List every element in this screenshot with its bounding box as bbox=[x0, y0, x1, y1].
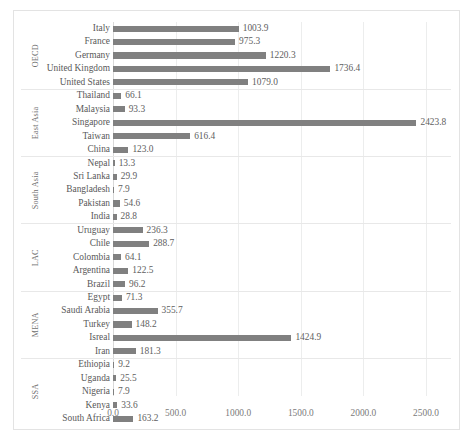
bar-row: Nepal13.3 bbox=[14, 157, 459, 170]
bar-chart-plot-area: Italy1003.9France975.3Germany1220.3Unite… bbox=[14, 11, 459, 429]
bar-value-label: 64.1 bbox=[125, 251, 141, 264]
bar bbox=[113, 295, 122, 301]
bar bbox=[113, 133, 190, 139]
bar bbox=[113, 200, 120, 206]
bar-row: Chile288.7 bbox=[14, 237, 459, 250]
bar-row: Isreal1424.9 bbox=[14, 331, 459, 344]
group-separator bbox=[21, 156, 451, 157]
bar-value-label: 93.3 bbox=[129, 103, 145, 116]
bar-value-label: 28.8 bbox=[121, 210, 137, 223]
x-axis-tick-label: 2000.0 bbox=[351, 408, 377, 418]
bar-value-label: 25.5 bbox=[120, 372, 136, 385]
category-label: Germany bbox=[44, 49, 110, 62]
x-axis-tick-label: 1500.0 bbox=[288, 408, 314, 418]
category-label: Isreal bbox=[44, 331, 110, 344]
bar-value-label: 96.2 bbox=[129, 278, 145, 291]
bar-value-label: 1003.9 bbox=[243, 22, 269, 35]
bar-row: Colombia64.1 bbox=[14, 251, 459, 264]
bar-row: Uganda25.5 bbox=[14, 372, 459, 385]
category-label: Malaysia bbox=[44, 103, 110, 116]
category-label: Nepal bbox=[44, 157, 110, 170]
category-label: United Kingdom bbox=[44, 62, 110, 75]
bar-row: Italy1003.9 bbox=[14, 22, 459, 35]
bar bbox=[113, 66, 330, 72]
bar bbox=[113, 52, 266, 58]
group-label-mena: MENA bbox=[28, 291, 43, 358]
category-label: South Africa bbox=[44, 412, 110, 425]
bar-value-label: 13.3 bbox=[119, 157, 135, 170]
category-label: Saudi Arabia bbox=[44, 304, 110, 317]
x-axis-tick-label: 1000.0 bbox=[225, 408, 251, 418]
group-separator bbox=[21, 358, 451, 359]
bar-row: Saudi Arabia355.7 bbox=[14, 304, 459, 317]
bar-value-label: 288.7 bbox=[153, 237, 174, 250]
bar bbox=[113, 241, 149, 247]
bar bbox=[113, 375, 116, 381]
bar-row: Sri Lanka29.9 bbox=[14, 170, 459, 183]
bar-row: Nigeria7.9 bbox=[14, 385, 459, 398]
bar bbox=[113, 227, 143, 233]
bar-value-label: 148.2 bbox=[136, 318, 157, 331]
bar-value-label: 33.6 bbox=[121, 399, 137, 412]
bar-value-label: 122.5 bbox=[132, 264, 153, 277]
bar bbox=[113, 93, 121, 99]
category-label: Taiwan bbox=[44, 130, 110, 143]
category-label: Argentina bbox=[44, 264, 110, 277]
bar-row: United States1079.0 bbox=[14, 76, 459, 89]
category-label: Uganda bbox=[44, 372, 110, 385]
bar-row: China123.0 bbox=[14, 143, 459, 156]
category-label: Uruguay bbox=[44, 224, 110, 237]
category-label: Ethiopia bbox=[44, 358, 110, 371]
bar bbox=[113, 174, 117, 180]
bar-row: France975.3 bbox=[14, 35, 459, 48]
bar bbox=[113, 79, 248, 85]
x-axis-tick-label: 0.0 bbox=[107, 408, 119, 418]
bar-value-label: 1424.9 bbox=[295, 331, 321, 344]
bar-row: Brazil96.2 bbox=[14, 278, 459, 291]
bar-value-label: 1220.3 bbox=[270, 49, 296, 62]
group-label-oecd: OECD bbox=[28, 22, 43, 89]
bar-value-label: 181.3 bbox=[140, 345, 161, 358]
bar-value-label: 616.4 bbox=[194, 130, 215, 143]
category-label: Egypt bbox=[44, 291, 110, 304]
bar bbox=[113, 348, 136, 354]
group-label-south-asia: South Asia bbox=[28, 157, 43, 224]
bar-row: Argentina122.5 bbox=[14, 264, 459, 277]
bar-row: Thailand66.1 bbox=[14, 89, 459, 102]
bar-value-label: 1079.0 bbox=[252, 76, 278, 89]
x-axis-tick-label: 500.0 bbox=[165, 408, 186, 418]
bar bbox=[113, 147, 128, 153]
category-label: Italy bbox=[44, 22, 110, 35]
group-label-ssa: SSA bbox=[28, 358, 43, 425]
bar-value-label: 123.0 bbox=[132, 143, 153, 156]
bar bbox=[113, 321, 132, 327]
bar bbox=[113, 160, 115, 166]
category-label: China bbox=[44, 143, 110, 156]
bar-value-label: 2423.8 bbox=[420, 116, 446, 129]
bar bbox=[113, 120, 416, 126]
bar bbox=[113, 39, 235, 45]
bar-row: Singapore2423.8 bbox=[14, 116, 459, 129]
category-label: Sri Lanka bbox=[44, 170, 110, 183]
category-label: Thailand bbox=[44, 89, 110, 102]
bar bbox=[113, 308, 158, 314]
bar-value-label: 7.9 bbox=[118, 183, 130, 196]
bar-value-label: 1736.4 bbox=[334, 62, 360, 75]
bar bbox=[113, 268, 128, 274]
category-label: India bbox=[44, 210, 110, 223]
bar-value-label: 355.7 bbox=[162, 304, 183, 317]
category-label: United States bbox=[44, 76, 110, 89]
category-label: Singapore bbox=[44, 116, 110, 129]
category-label: Colombia bbox=[44, 251, 110, 264]
bar-value-label: 9.2 bbox=[118, 358, 130, 371]
group-label-lac: LAC bbox=[28, 224, 43, 291]
group-separator bbox=[21, 89, 451, 90]
bar bbox=[113, 254, 121, 260]
group-label-east-asia: East Asia bbox=[28, 89, 43, 156]
bar-value-label: 975.3 bbox=[239, 35, 260, 48]
bar bbox=[113, 335, 291, 341]
category-label: Nigeria bbox=[44, 385, 110, 398]
category-label: Chile bbox=[44, 237, 110, 250]
bar bbox=[113, 106, 125, 112]
bar-row: Egypt71.3 bbox=[14, 291, 459, 304]
